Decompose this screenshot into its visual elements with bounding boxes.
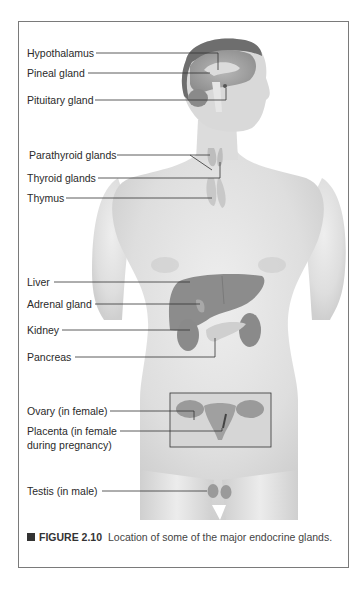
- label-pituitary-gland: Pituitary gland: [27, 94, 94, 106]
- label-ovary: Ovary (in female): [27, 405, 108, 417]
- figure-caption: FIGURE 2.10 Location of some of the majo…: [27, 530, 342, 544]
- head: [182, 38, 270, 131]
- figure-number: FIGURE 2.10: [39, 531, 102, 543]
- label-placenta-line1: Placenta (in female: [27, 425, 117, 437]
- label-placenta-line2: during pregnancy): [27, 439, 112, 451]
- label-adrenal-gland: Adrenal gland: [27, 298, 92, 310]
- label-testis: Testis (in male): [27, 485, 98, 497]
- label-kidney: Kidney: [27, 324, 59, 336]
- label-pancreas: Pancreas: [27, 351, 71, 363]
- label-liver: Liver: [27, 276, 50, 288]
- caption-bullet-icon: [27, 533, 35, 541]
- label-thyroid-glands: Thyroid glands: [27, 172, 96, 184]
- label-parathyroid-glands: Parathyroid glands: [29, 149, 117, 161]
- label-thymus: Thymus: [27, 192, 64, 204]
- label-hypothalamus: Hypothalamus: [27, 47, 94, 59]
- label-pineal-gland: Pineal gland: [27, 67, 85, 79]
- body-illustration: [0, 0, 364, 589]
- caption-text: Location of some of the major endocrine …: [108, 531, 332, 543]
